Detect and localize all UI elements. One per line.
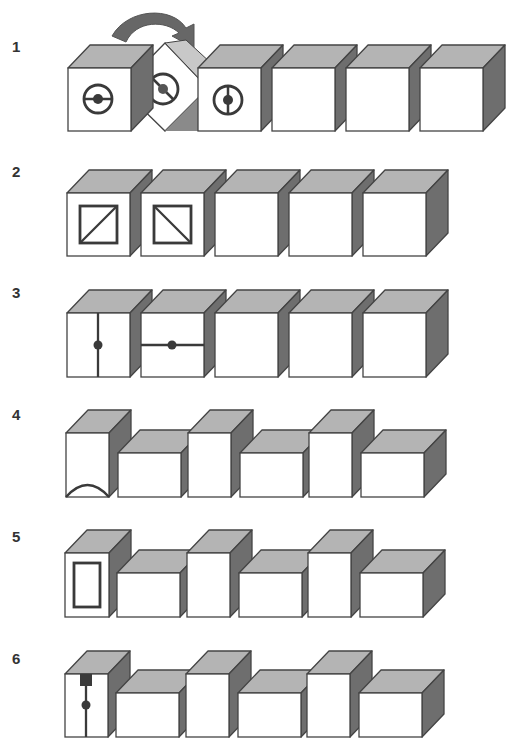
row-label-4: 4 [12,406,20,423]
row1-cube-4 [272,45,357,131]
cube-front-face [238,693,301,737]
row-label-5: 5 [12,528,20,545]
cube-front-face [215,313,278,377]
cube-front-face [307,674,350,737]
cube-front-face [289,313,352,377]
row1-cube-3 [198,45,283,131]
row1-cube-6 [420,45,505,131]
cube-front-face [420,68,483,131]
cube-front-face [346,68,409,131]
dot-icon [93,94,103,104]
cube-front-face [361,453,424,497]
cube-front-face [308,553,351,617]
dot-icon [94,341,103,350]
row4-block-6 [361,430,446,497]
cube-front-face [116,693,179,737]
cube-front-face [186,674,229,737]
row1-cube-1 [68,45,153,131]
dot-icon [158,84,168,94]
row-label-2: 2 [12,163,20,180]
cube-front-face [66,433,109,497]
cube-front-face [309,433,352,497]
row-label-6: 6 [12,650,20,667]
cube-front-face [272,68,335,131]
cube-front-face [360,573,423,617]
cube-front-face [188,433,231,497]
row3-cube-1 [67,290,152,377]
row3-cube-4 [289,290,374,377]
cube-front-face [363,193,426,256]
row3-cube-2 [141,290,226,377]
row2-cube-4 [289,170,374,256]
row2-cube-1 [67,170,152,256]
row3-cube-5 [363,290,448,377]
cube-front-face [187,553,230,617]
row3-cube-3 [215,290,300,377]
cube-front-face [240,453,303,497]
cube-front-face [239,573,302,617]
row2-cube-3 [215,170,300,256]
diagram-canvas [0,0,513,740]
dot-icon [82,701,91,710]
row-label-3: 3 [12,284,20,301]
dark-square-icon [80,674,92,686]
row5-block-6 [360,550,445,617]
cube-front-face [117,573,180,617]
cube-front-face [289,193,352,256]
dot-icon [168,341,177,350]
row1-cube-5 [346,45,431,131]
cube-front-face [363,313,426,377]
row-label-1: 1 [12,38,20,55]
row2-cube-2 [141,170,226,256]
cube-front-face [359,693,422,737]
dot-icon [223,95,233,105]
row2-cube-5 [363,170,448,256]
row6-block-6 [359,670,444,737]
cube-front-face [118,453,181,497]
cube-front-face [215,193,278,256]
